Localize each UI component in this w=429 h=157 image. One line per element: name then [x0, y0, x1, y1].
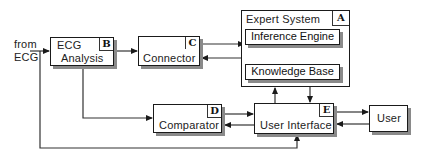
ecg-analysis-tag: B — [99, 38, 113, 51]
node-ecg-analysis[interactable]: ECG Analysis B — [50, 37, 114, 66]
ecg-analysis-label-line2: Analysis — [61, 52, 104, 64]
node-inference-engine[interactable]: Inference Engine — [245, 29, 340, 45]
node-knowledge-base[interactable]: Knowledge Base — [245, 64, 340, 80]
connector-tag: C — [185, 37, 199, 49]
user-interface-label: User Interface — [260, 119, 332, 131]
node-user-interface[interactable]: User Interface E — [254, 103, 334, 134]
input-label-from: from — [14, 38, 37, 50]
expert-system-tag: A — [332, 11, 349, 26]
expert-system-label: Expert System — [246, 13, 320, 25]
user-label: User — [377, 112, 401, 124]
connection-lines — [0, 0, 429, 157]
input-label-ecg: ECG — [14, 51, 38, 63]
node-connector[interactable]: Connector C — [138, 36, 200, 66]
comparator-label: Comparator — [159, 119, 219, 131]
node-user[interactable]: User — [369, 105, 408, 132]
node-comparator[interactable]: Comparator D — [153, 104, 222, 133]
diagram-canvas: from ECG ECG Analysis B Connector C Expe… — [0, 0, 429, 157]
ecg-analysis-label-line1: ECG — [57, 39, 81, 51]
user-interface-tag: E — [319, 104, 333, 117]
edge-analysis-to-comparator — [83, 66, 152, 118]
comparator-tag: D — [207, 105, 221, 118]
connector-label: Connector — [143, 52, 196, 64]
